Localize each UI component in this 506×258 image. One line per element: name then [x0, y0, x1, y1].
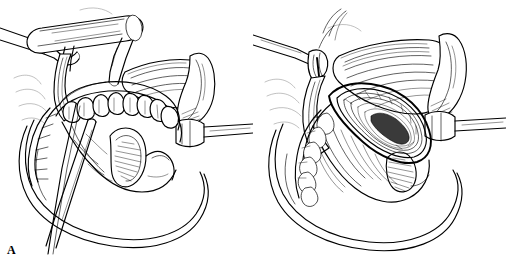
cleft-hatching-a: [115, 142, 141, 181]
alveolar-ridge-left-a: [28, 104, 60, 186]
retractor-right-b: [425, 111, 506, 141]
figure-root: A: [0, 0, 506, 258]
suture-threads-b: [319, 9, 347, 48]
palate-and-cleft-a: [62, 122, 176, 192]
panel-b: B: [253, 0, 506, 258]
panel-a: A: [0, 0, 253, 258]
panel-label-a: A: [7, 244, 16, 256]
retractor-right-a: [176, 119, 253, 147]
retractor-left-b: [253, 35, 328, 80]
